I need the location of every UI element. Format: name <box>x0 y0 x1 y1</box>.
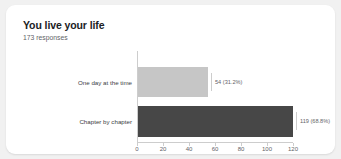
x-tick-label: 40 <box>186 146 193 152</box>
x-tick-label: 80 <box>238 146 245 152</box>
x-tick-label: 0 <box>135 146 138 152</box>
bar-chart-plot: 0 20 40 60 80 100 120 One day at the tim… <box>6 49 335 154</box>
bar-value-label-one-day-at-the-time: 54 (31.2%) <box>215 79 242 85</box>
bar-one-day-at-the-time[interactable] <box>138 67 208 97</box>
bar-value-label-chapter-by-chapter: 119 (68.8%) <box>300 118 330 124</box>
category-label-chapter-by-chapter: Chapter by chapter <box>79 118 132 125</box>
x-tick-label: 60 <box>212 146 219 152</box>
x-tick-label: 100 <box>262 146 272 152</box>
bar-value-tick <box>211 73 212 91</box>
x-tick-label: 120 <box>288 146 298 152</box>
x-tick-label: 20 <box>160 146 167 152</box>
category-label-one-day-at-the-time: One day at the time <box>78 79 132 86</box>
bar-chapter-by-chapter[interactable] <box>138 106 293 137</box>
response-count: 173 responses <box>23 34 68 41</box>
page-title: You live your life <box>23 19 104 31</box>
chart-card: You live your life 173 responses 0 20 40… <box>6 5 335 154</box>
bar-value-tick <box>296 112 297 130</box>
